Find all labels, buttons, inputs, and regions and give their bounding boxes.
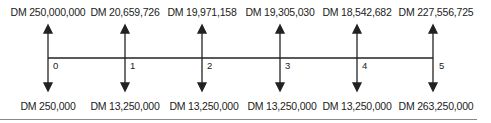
inflow-label-2: DM 19,971,158 [167,6,236,18]
period-marker-1: 1 [130,60,135,71]
arrow-up-icon [429,25,437,33]
outflow-label-5: DM 263,250,000 [399,100,474,112]
outflow-label-3: DM 13,250,000 [247,100,316,112]
arrow-up-icon [353,25,361,33]
inflow-label-1: DM 20,659,726 [90,6,159,18]
inflow-label-5: DM 227,556,725 [399,6,474,18]
outflow-label-1: DM 13,250,000 [90,100,159,112]
arrow-up-icon [198,25,206,33]
arrow-down-icon [121,83,129,91]
inflow-label-4: DM 18,542,682 [322,6,391,18]
arrow-up-icon [121,25,129,33]
inflow-label-0: DM 250,000,000 [11,6,86,18]
outflow-label-0: DM 250,000 [20,100,75,112]
bottom-divider [0,119,477,120]
arrow-down-icon [198,83,206,91]
period-marker-0: 0 [53,60,58,71]
period-marker-4: 4 [362,60,367,71]
period-marker-5: 5 [439,60,444,71]
outflow-label-2: DM 13,250,000 [169,100,238,112]
arrow-down-icon [276,83,284,91]
arrow-down-icon [44,83,52,91]
inflow-label-3: DM 19,305,030 [245,6,314,18]
arrow-down-icon [429,83,437,91]
arrow-up-icon [276,25,284,33]
arrow-down-icon [353,83,361,91]
arrow-up-icon [44,25,52,33]
period-marker-2: 2 [207,60,212,71]
outflow-label-4: DM 13,250,000 [322,100,391,112]
period-marker-3: 3 [285,60,290,71]
